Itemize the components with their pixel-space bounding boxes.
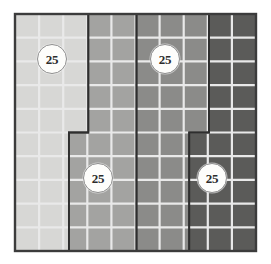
partition-figure: 25 25 25 25 — [0, 0, 271, 264]
region-4-count-label: 25 — [206, 172, 219, 185]
region-3-count-label: 25 — [159, 53, 172, 66]
region-2-count-badge: 25 — [83, 163, 113, 193]
region-2-count-label: 25 — [92, 172, 105, 185]
region-3-count-badge: 25 — [150, 44, 180, 74]
region-1-count-label: 25 — [46, 53, 59, 66]
grid-diagram — [0, 0, 271, 264]
region-4-count-badge: 25 — [197, 163, 227, 193]
region-1-count-badge: 25 — [37, 44, 67, 74]
